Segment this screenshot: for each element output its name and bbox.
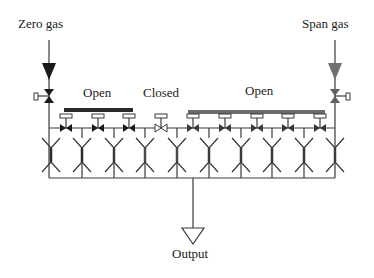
output-arrow-icon	[182, 228, 204, 244]
zero-gas-valve-icon[interactable]	[34, 89, 54, 103]
output-label: Output	[172, 246, 209, 261]
gas-switching-diagram: Zero gas Span gas Open Closed Open Outpu…	[0, 0, 374, 278]
valve-4-closed[interactable]	[155, 114, 167, 132]
valve-3[interactable]	[123, 114, 135, 132]
column-9	[295, 128, 313, 178]
closed-label: Closed	[143, 85, 180, 100]
span-gas-arrow-icon	[328, 63, 342, 80]
column-2	[73, 128, 91, 178]
valve-1[interactable]	[60, 114, 72, 132]
column-6	[200, 128, 218, 178]
valve-9[interactable]	[314, 114, 326, 132]
column-1	[42, 138, 60, 172]
open-left-label: Open	[83, 85, 112, 100]
right-actuator-bar	[188, 110, 325, 114]
column-8	[263, 128, 281, 178]
column-3	[105, 128, 123, 178]
column-7	[232, 128, 250, 178]
output	[182, 178, 204, 244]
valve-7[interactable]	[251, 114, 263, 132]
span-gas-inlet	[328, 40, 350, 178]
valve-8[interactable]	[282, 114, 294, 132]
span-gas-valve-icon[interactable]	[330, 89, 350, 103]
zero-gas-arrow-icon	[42, 63, 56, 80]
valve-5[interactable]	[187, 114, 199, 132]
column-5	[168, 128, 186, 178]
zero-gas-label: Zero gas	[18, 16, 63, 31]
valve-6[interactable]	[219, 114, 231, 132]
span-gas-label: Span gas	[302, 16, 349, 31]
zero-gas-inlet	[34, 40, 56, 178]
column-4	[136, 128, 154, 178]
open-right-label: Open	[245, 83, 274, 98]
valve-2[interactable]	[92, 114, 104, 132]
left-actuator-bar	[64, 108, 133, 112]
